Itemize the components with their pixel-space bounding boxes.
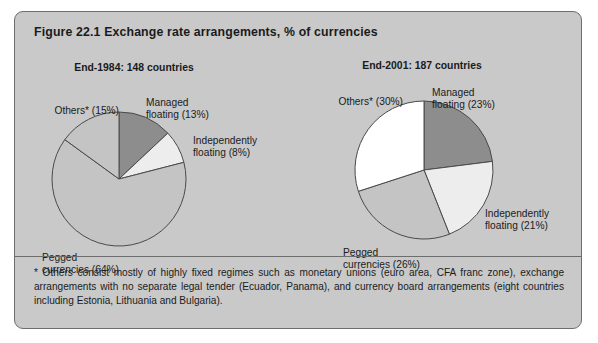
footnote-divider [15,256,581,257]
pie-chart-end-1984: End-1984: 148 countries Others* (15%) Ma… [15,12,299,256]
pie-chart-end-2001: End-2001: 187 countries Others* (30%) Ma… [299,12,581,256]
label-others-2001: Others* (30%) [299,96,403,108]
figure-footnote: * Others consist mostly of highly fixed … [34,266,564,309]
pie-chart-end-1984-heading: End-1984: 148 countries [49,62,219,73]
label-managed-floating-2001: Managed floating (23%) [432,87,528,112]
figure-card: Figure 22.1 Exchange rate arrangements, … [14,11,582,329]
label-others-1984: Others* (15%) [21,105,119,117]
pie-chart-end-2001-heading: End-2001: 187 countries [337,60,507,71]
label-independently-floating-2001: Independently floating (21%) [485,208,581,233]
label-independently-floating-1984: Independently floating (8%) [193,135,293,160]
label-managed-floating-1984: Managed floating (13%) [146,97,242,122]
